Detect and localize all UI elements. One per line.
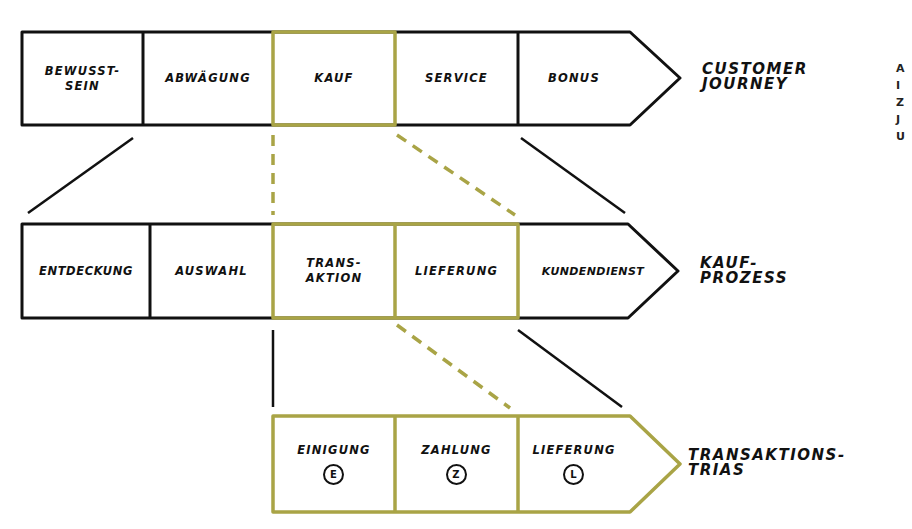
trias-lieferung-label: LIEFERUNG [532,443,615,458]
connector-right [521,138,625,213]
stage-service: SERVICE [395,32,518,125]
circle-l-icon: L [563,464,584,485]
stage-abwaegung: ABWÄGUNG [143,32,273,125]
trias-zahlung: ZAHLUNG Z [395,416,518,512]
kaufprozess-label: KAUF- PROZESS [700,256,788,286]
cropped-edge-text: A I Z J U [896,60,912,145]
connector-dashed-right [397,135,515,215]
circle-e-icon: E [323,464,344,485]
trias-zahlung-label: ZAHLUNG [421,443,491,458]
stage-kauf: KAUF [273,32,395,125]
stage-bonus: BONUS [518,32,630,125]
customer-journey-label: CUSTOMER JOURNEY [702,62,808,92]
trias-einigung-label: EINIGUNG [297,443,370,458]
trias-lieferung: LIEFERUNG L [518,416,630,512]
trias-cell: EINIGUNG E [297,443,370,485]
transaktionstrias-label: TRANSAKTIONS- TRIAS [688,448,846,478]
trias-einigung: EINIGUNG E [273,416,395,512]
connector-right [518,330,622,407]
stage-transaktion: TRANS- AKTION [273,224,395,318]
connector-dashed [397,325,510,408]
stage-bewusstsein: BEWUSST- SEIN [22,32,143,125]
stage-auswahl: AUSWAHL [150,224,273,318]
connectors-top [28,135,625,215]
stage-kundendienst: KUNDENDIENST [518,224,668,318]
trias-cell: LIEFERUNG L [532,443,615,485]
circle-z-icon: Z [446,464,467,485]
stage-entdeckung: ENTDECKUNG [22,224,150,318]
trias-cell: ZAHLUNG Z [421,443,491,485]
stage-lieferung: LIEFERUNG [395,224,518,318]
connector-left [28,138,133,213]
connectors-bottom [273,325,622,408]
